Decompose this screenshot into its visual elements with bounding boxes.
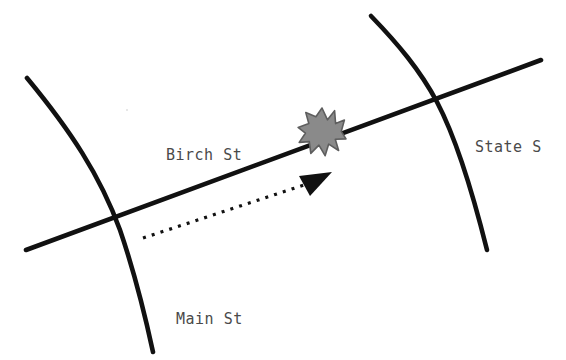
diagram-canvas: Birch St State S Main St — [0, 0, 566, 360]
canvas-background — [0, 0, 566, 360]
label-main-st: Main St — [176, 310, 243, 328]
scan-speck — [126, 109, 128, 111]
label-birch-st: Birch St — [166, 146, 242, 164]
label-state-st: State S — [475, 138, 542, 156]
collision-diagram: Birch St State S Main St — [0, 0, 566, 360]
